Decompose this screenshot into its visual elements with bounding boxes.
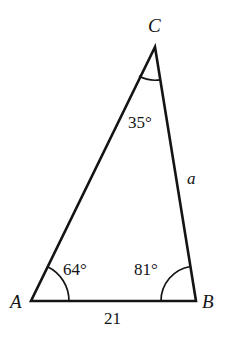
angle-label-a: 64° (63, 261, 87, 278)
side-label-a: a (187, 170, 196, 187)
triangle-diagram-page: C A B 35° 64° 81° a 21 (0, 0, 227, 344)
vertex-label-b: B (202, 292, 214, 311)
triangle-outline (31, 47, 196, 301)
angle-label-c: 35° (128, 114, 152, 131)
vertex-label-a: A (10, 292, 22, 311)
vertex-label-c: C (148, 16, 161, 35)
side-label-c: 21 (104, 310, 121, 327)
angle-label-b: 81° (134, 261, 158, 278)
